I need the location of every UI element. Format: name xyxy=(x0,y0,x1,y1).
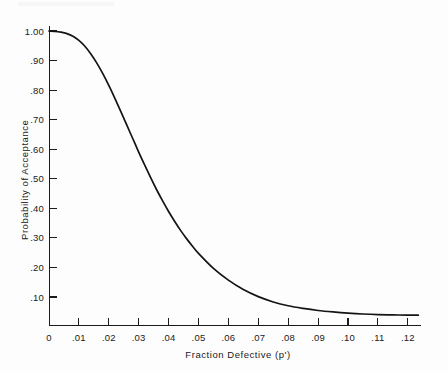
y-tick-label: .90 xyxy=(30,55,44,66)
x-tick-label: .03 xyxy=(132,332,146,343)
y-tick-label: .30 xyxy=(30,232,44,243)
scan-artifact xyxy=(18,2,114,6)
x-tick-label: .05 xyxy=(192,332,206,343)
oc-curve-chart: 1.00 .90 .80 .70 .60 .50 .40 .30 .20 .10… xyxy=(0,0,448,372)
x-tick-label: .02 xyxy=(102,332,116,343)
y-tick-label: .60 xyxy=(30,144,44,155)
x-tick-label: .01 xyxy=(72,332,86,343)
x-tick-label: .11 xyxy=(371,332,384,343)
y-tick-label: .20 xyxy=(30,262,44,273)
y-tick-label: .40 xyxy=(30,203,44,214)
x-axis-title: Fraction Defective (p') xyxy=(185,349,290,360)
x-tick-label: .09 xyxy=(311,332,325,343)
y-tick-label: .70 xyxy=(30,114,44,125)
x-tick-label: .08 xyxy=(281,332,295,343)
x-tick-label: 0 xyxy=(46,332,51,343)
y-tick-label: .50 xyxy=(30,173,44,184)
y-tick-label: .80 xyxy=(30,85,44,96)
y-tick-label: 1.00 xyxy=(25,26,44,37)
x-tick-label: .10 xyxy=(341,332,355,343)
chart-figure: 1.00 .90 .80 .70 .60 .50 .40 .30 .20 .10… xyxy=(0,0,448,372)
x-tick-label: .07 xyxy=(251,332,265,343)
y-axis-title: Probability of Acceptance xyxy=(19,120,30,240)
x-tick-label: .06 xyxy=(221,332,235,343)
chart-background xyxy=(0,0,448,372)
y-tick-label: .10 xyxy=(30,292,44,303)
x-tick-label: .12 xyxy=(401,332,415,343)
x-tick-label: .04 xyxy=(162,332,176,343)
